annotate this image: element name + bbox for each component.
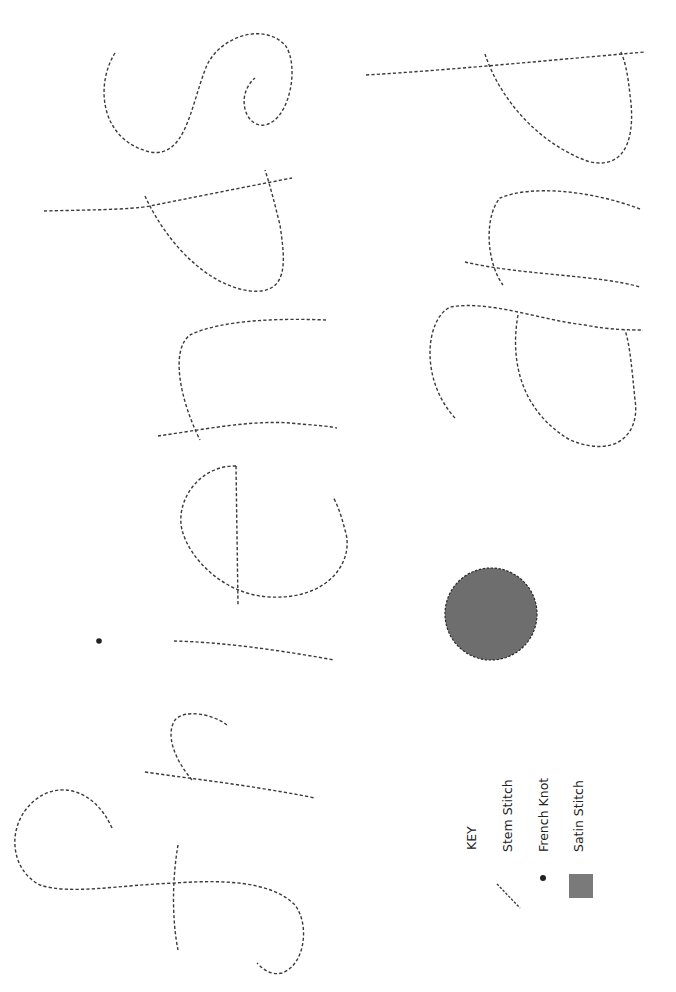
key-label-satin-stitch: Satin Stitch	[571, 780, 586, 852]
letter-r	[145, 714, 315, 798]
letter-a	[366, 50, 645, 163]
dashed-line-icon	[492, 870, 532, 920]
key-label-stem-stitch: Stem Stitch	[500, 779, 515, 852]
french-knot	[96, 638, 102, 644]
satin-stitch-circle	[445, 568, 537, 660]
letter-n-2	[465, 191, 640, 287]
letter-d-2	[430, 306, 643, 447]
letter-d	[44, 170, 292, 291]
stitch-key: KEY Stem Stitch French Knot Satin Stitch	[452, 760, 652, 980]
key-title: KEY	[464, 826, 479, 850]
letter-i	[96, 638, 334, 660]
letter-s	[104, 34, 292, 153]
letter-e	[181, 466, 347, 605]
key-label-french-knot: French Knot	[536, 778, 551, 852]
letter-n	[158, 319, 337, 440]
filled-square-icon	[569, 874, 593, 898]
dot-icon	[540, 875, 546, 881]
letter-f	[15, 790, 304, 974]
